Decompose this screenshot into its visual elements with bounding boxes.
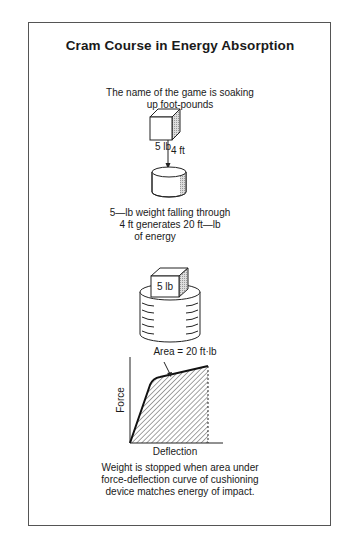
stack-weight-label: 5 lb <box>151 281 179 293</box>
conclusion-line-2: force-deflection curve of cushioning <box>60 474 300 486</box>
chart-x-axis-label: Deflection <box>125 446 225 458</box>
chart-area-annotation: Area = 20 ft·lb <box>135 346 235 358</box>
chart-y-axis-label: Force <box>115 375 127 425</box>
energy-line-1: 5—lb weight falling through <box>70 207 270 219</box>
force-deflection-chart <box>130 357 223 443</box>
energy-line-3: of energy <box>70 231 270 243</box>
conclusion-line-3: device matches energy of impact. <box>60 486 300 498</box>
drop-distance-label: 4 ft <box>171 145 193 157</box>
conclusion-line-1: Weight is stopped when area under <box>60 462 300 474</box>
cylinder-icon <box>152 167 186 197</box>
energy-line-2: 4 ft generates 20 ft—lb <box>70 219 270 231</box>
diagram-graphics <box>0 0 350 540</box>
weight-cube-icon <box>150 109 180 140</box>
